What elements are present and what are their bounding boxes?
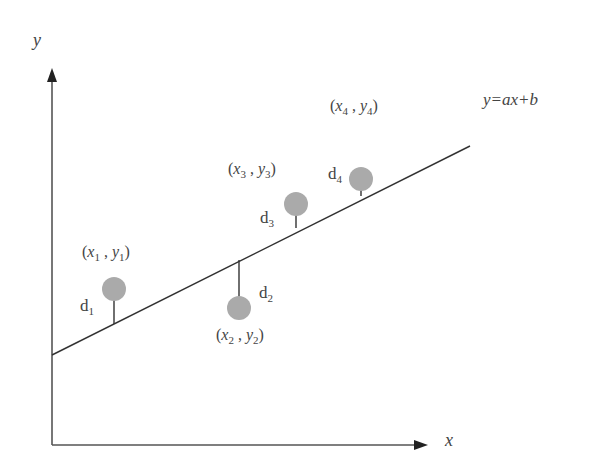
data-point-3 xyxy=(284,192,308,216)
x-axis-label: x xyxy=(445,430,453,451)
distance-label-3: d3 xyxy=(260,208,274,229)
data-point-4 xyxy=(349,167,373,191)
point-label-2: (x2 , y2) xyxy=(216,326,264,346)
x-axis-arrow-icon xyxy=(414,440,428,450)
distance-label-2: d2 xyxy=(259,283,273,304)
y-axis-label: y xyxy=(33,30,41,51)
line-equation: y=ax+b xyxy=(483,90,538,110)
y-axis-arrow-icon xyxy=(47,68,57,82)
point-label-4: (x4 , y4) xyxy=(330,97,378,117)
data-point-1 xyxy=(102,277,126,301)
data-point-2 xyxy=(227,296,251,320)
diagram-canvas xyxy=(0,0,593,475)
distance-label-1: d1 xyxy=(80,296,94,317)
point-label-3: (x3 , y3) xyxy=(228,160,276,180)
point-label-1: (x1 , y1) xyxy=(82,243,130,263)
distance-label-4: d4 xyxy=(328,164,342,185)
